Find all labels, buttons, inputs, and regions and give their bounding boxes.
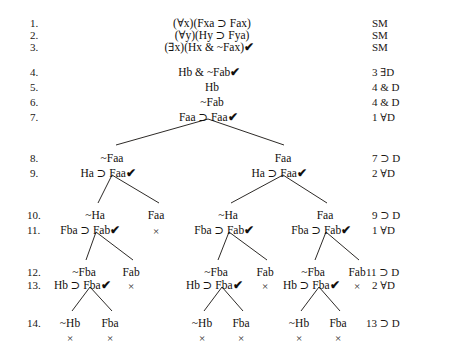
- formula-text: ~Hb: [192, 317, 212, 329]
- closed-branch-icon: ×: [107, 333, 113, 344]
- formula-text: Fba: [232, 317, 249, 329]
- justification-entry: 2 ∀D: [372, 168, 395, 179]
- formula-node: Fab: [122, 267, 139, 279]
- formula-text: Hb ⊃ Fba: [54, 279, 101, 291]
- formula-text: Fab: [348, 266, 365, 278]
- formula-text: Ha ⊃ Faa: [252, 167, 297, 179]
- formula-node: Fba ⊃ Fab✔: [291, 225, 350, 237]
- formula-node: Fab: [348, 267, 365, 279]
- formula-text: ~Fab: [200, 96, 223, 108]
- formula-text: ~Ha: [218, 209, 238, 221]
- formula-text: Faa: [317, 209, 334, 221]
- formula-text: Hb: [205, 81, 219, 93]
- justification-entry: 2 ∀D: [372, 280, 395, 291]
- truth-tree-page: 1.2.3.4.5.6.7.8.9.10.11.12.13.14. (∀x)(F…: [0, 0, 449, 353]
- justification-entry: 4 & D: [372, 82, 400, 93]
- formula-text: (∃x)(Hx & ~Fax): [164, 41, 244, 53]
- closed-branch-icon: ×: [67, 333, 73, 344]
- formula-text: ~Fba: [301, 266, 324, 278]
- check-icon: ✔: [126, 166, 136, 180]
- formula-text: (∀x)(Fxa ⊃ Fax): [173, 17, 251, 29]
- formula-node: Fba: [101, 318, 118, 330]
- line-number: 5.: [30, 82, 38, 93]
- formula-text: ~Fba: [204, 266, 227, 278]
- line-number: 7.: [30, 112, 38, 123]
- check-icon: ✔: [341, 223, 351, 237]
- formula-node: Faa: [317, 210, 334, 222]
- formula-text: Hb ⊃ Fba: [186, 279, 233, 291]
- formula-text: Hb & ~Fab: [178, 66, 230, 78]
- closed-branch-icon: ×: [335, 333, 341, 344]
- formula-node: Fba ⊃ Fab✔: [60, 225, 119, 237]
- justification-entry: 3 ∃D: [372, 67, 394, 78]
- justification-entry: 11 ⊃ D: [366, 267, 399, 278]
- formula-node: Hb & ~Fab✔: [178, 67, 240, 79]
- formula-node: ~Faa: [101, 153, 124, 165]
- justification-entry: 9 ⊃ D: [372, 210, 400, 221]
- justification-entry: 7 ⊃ D: [372, 153, 400, 164]
- line-number: 13.: [27, 280, 41, 291]
- closed-branch-icon: ×: [296, 333, 302, 344]
- line-number: 6.: [30, 97, 38, 108]
- formula-node: Fba: [329, 318, 346, 330]
- closed-branch-icon: ×: [199, 333, 205, 344]
- line-number: 1.: [30, 18, 38, 29]
- formula-node: (∃x)(Hx & ~Fax)✔: [164, 42, 253, 54]
- formula-node: ~Fab: [200, 97, 223, 109]
- check-icon: ✔: [244, 223, 254, 237]
- formula-node: Hb ⊃ Fba✔: [54, 280, 110, 292]
- formula-text: Fab: [256, 266, 273, 278]
- formula-text: Fba: [329, 317, 346, 329]
- line-number: 2.: [30, 30, 38, 41]
- closed-branch-icon: ×: [153, 226, 159, 237]
- line-number: 3.: [30, 42, 38, 53]
- formula-node: Ha ⊃ Faa✔: [252, 168, 307, 180]
- formula-node: (∀y)(Hy ⊃ Fya): [175, 30, 250, 42]
- justification-entry: SM: [372, 30, 388, 41]
- formula-text: Faa: [148, 209, 165, 221]
- formula-text: Fab: [122, 266, 139, 278]
- justification-entry: SM: [372, 18, 388, 29]
- justification-entry: 1 ∀D: [372, 112, 395, 123]
- check-icon: ✔: [244, 40, 254, 54]
- line-number: 11.: [27, 225, 40, 236]
- formula-text: Fba: [101, 317, 118, 329]
- line-number: 10.: [27, 210, 41, 221]
- check-icon: ✔: [230, 65, 240, 79]
- formula-text: ~Faa: [101, 152, 124, 164]
- justification-entry: 4 & D: [372, 97, 400, 108]
- check-icon: ✔: [101, 278, 111, 292]
- justification-entry: SM: [372, 42, 388, 53]
- formula-node: Faa: [148, 210, 165, 222]
- formula-text: ~Hb: [289, 317, 309, 329]
- formula-node: Fab: [256, 267, 273, 279]
- formula-text: ~Ha: [85, 209, 105, 221]
- formula-text: Hb ⊃ Fba: [283, 279, 330, 291]
- formula-text: Faa ⊃ Faa: [179, 111, 228, 123]
- check-icon: ✔: [228, 110, 238, 124]
- closed-branch-icon: ×: [262, 281, 268, 292]
- closed-branch-icon: ×: [354, 281, 360, 292]
- justification-entry: 1 ∀D: [372, 225, 395, 236]
- formula-node: Ha ⊃ Faa✔: [81, 168, 136, 180]
- formula-node: ~Hb: [60, 318, 80, 330]
- formula-node: Fba: [232, 318, 249, 330]
- check-icon: ✔: [233, 278, 243, 292]
- formula-node: (∀x)(Fxa ⊃ Fax): [173, 18, 251, 30]
- formula-text: Ha ⊃ Faa: [81, 167, 126, 179]
- formula-text: Fba ⊃ Fab: [194, 224, 244, 236]
- formula-node: Fba ⊃ Fab✔: [194, 225, 253, 237]
- formula-node: Hb ⊃ Fba✔: [283, 280, 339, 292]
- formula-node: ~Hb: [289, 318, 309, 330]
- formula-node: ~Ha: [85, 210, 105, 222]
- formula-text: Fba ⊃ Fab: [60, 224, 110, 236]
- check-icon: ✔: [330, 278, 340, 292]
- closed-branch-icon: ×: [238, 333, 244, 344]
- line-number: 4.: [30, 67, 38, 78]
- formula-text: Fba ⊃ Fab: [291, 224, 341, 236]
- formula-node: ~Ha: [218, 210, 238, 222]
- formula-text: Faa: [275, 152, 292, 164]
- line-number: 14.: [27, 318, 41, 329]
- formula-node: ~Fba: [301, 267, 324, 279]
- line-number: 12.: [27, 267, 41, 278]
